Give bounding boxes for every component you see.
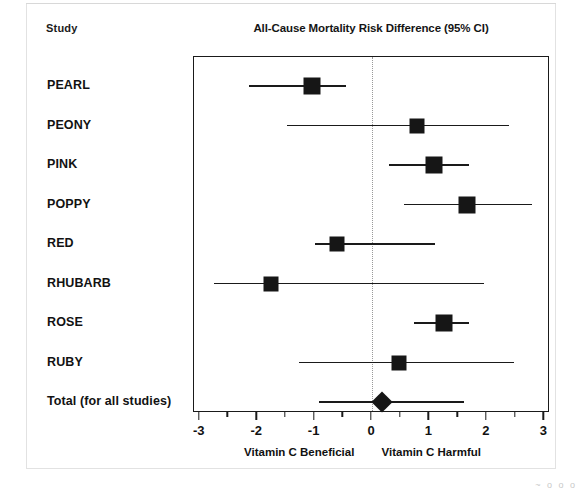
axis-footnote-harmful: Vitamin C Harmful: [382, 446, 481, 458]
summary-diamond-marker: [371, 391, 392, 412]
figure-page: Study All-Cause Mortality Risk Differenc…: [0, 0, 583, 494]
study-label: RUBY: [47, 355, 83, 369]
study-label: PEARL: [47, 78, 90, 92]
axis-major-tick: [370, 412, 371, 420]
axis-footnote-beneficial: Vitamin C Beneficial: [244, 446, 354, 458]
point-estimate-square-marker: [409, 118, 424, 133]
axis-tick-label: -1: [308, 423, 320, 438]
study-label: Total (for all studies): [47, 394, 171, 408]
point-estimate-square-marker: [391, 355, 406, 370]
point-estimate-square-marker: [263, 276, 278, 291]
axis-tick-label: 0: [367, 423, 374, 438]
page-title: All-Cause Mortality Risk Difference (95%…: [193, 22, 549, 34]
point-estimate-square-marker: [329, 237, 344, 252]
study-label: PEONY: [47, 118, 91, 132]
x-axis: -3-2-10123 Vitamin C Beneficial Vitamin …: [193, 412, 549, 494]
axis-major-tick: [198, 412, 199, 420]
axis-tick-label: -2: [250, 423, 262, 438]
study-label: PINK: [47, 157, 77, 171]
axis-minor-tick: [456, 412, 457, 417]
study-label: RED: [47, 236, 74, 250]
point-estimate-square-marker: [303, 78, 320, 95]
axis-tick-label: 1: [425, 423, 432, 438]
axis-minor-tick: [514, 412, 515, 417]
axis-tick-label: -3: [193, 423, 205, 438]
axis-major-tick: [255, 412, 256, 420]
page-frame-top-edge: [26, 3, 556, 4]
axis-major-tick: [485, 412, 486, 420]
point-estimate-square-marker: [458, 196, 475, 213]
forest-plot-area: [193, 56, 549, 412]
axis-tick-label: 3: [540, 423, 547, 438]
confidence-interval-line: [287, 125, 509, 127]
axis-tick-label: 2: [482, 423, 489, 438]
axis-major-tick: [543, 412, 544, 420]
axis-minor-tick: [399, 412, 400, 417]
axis-minor-tick: [227, 412, 228, 417]
axis-minor-tick: [342, 412, 343, 417]
axis-major-tick: [313, 412, 314, 420]
study-label: ROSE: [47, 315, 83, 329]
point-estimate-square-marker: [435, 315, 452, 332]
axis-minor-tick: [284, 412, 285, 417]
point-estimate-square-marker: [426, 157, 443, 174]
study-column-header: Study: [46, 22, 78, 34]
study-label: RHUBARB: [47, 276, 111, 290]
confidence-interval-line: [214, 283, 484, 285]
scan-artifact-mark: ~ o o o: [535, 480, 577, 490]
study-label: POPPY: [47, 197, 91, 211]
axis-major-tick: [428, 412, 429, 420]
confidence-interval-line: [249, 85, 346, 87]
null-effect-line: [372, 57, 373, 411]
